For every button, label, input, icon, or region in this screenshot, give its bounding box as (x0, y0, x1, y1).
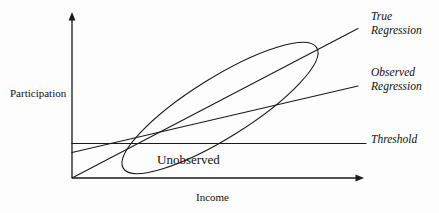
threshold-label: Threshold (371, 133, 417, 147)
true-regression-label: True Regression (371, 10, 422, 37)
x-axis-label: Income (196, 191, 229, 204)
y-axis-arrow-icon (69, 12, 76, 21)
y-axis-label: Participation (10, 87, 66, 100)
regression-threshold-diagram: True Regression Observed Regression Thre… (0, 0, 439, 213)
observed-regression-label: Observed Regression (371, 66, 422, 93)
unobserved-data-ellipse (107, 22, 332, 194)
observed-regression-line (72, 86, 358, 153)
unobserved-region-label: Unobserved (157, 152, 220, 167)
x-axis-arrow-icon (356, 175, 365, 182)
